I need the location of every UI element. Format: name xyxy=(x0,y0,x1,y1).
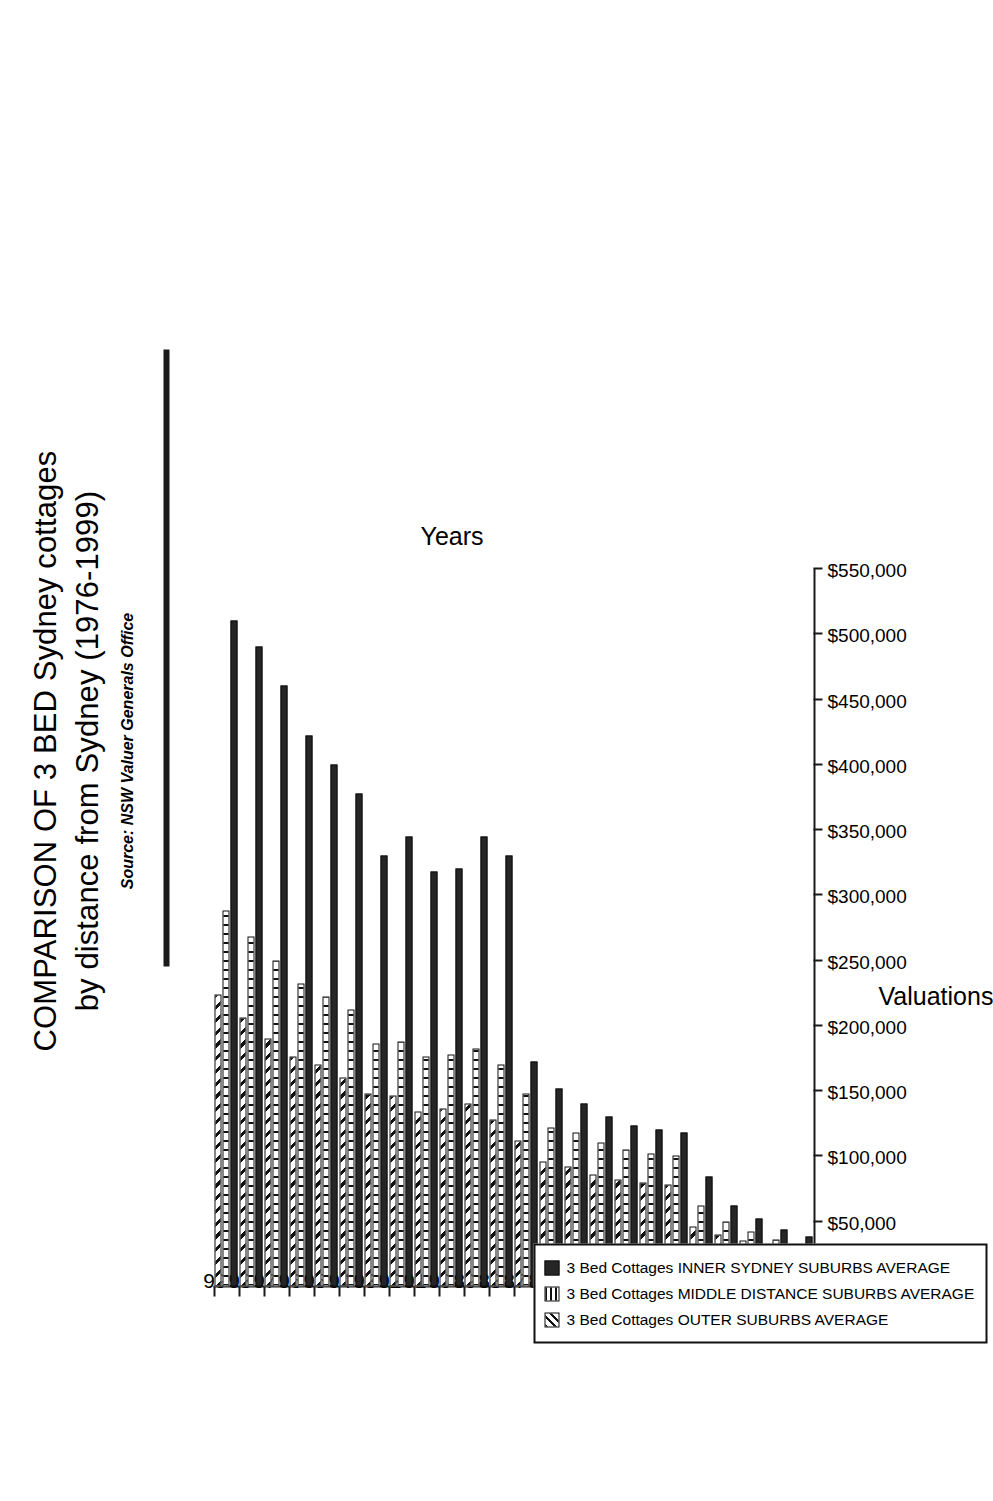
bar-group-82 xyxy=(638,568,663,1286)
bar-88-series-0 xyxy=(505,855,512,1286)
value-axis-tick-label: $300,000 xyxy=(827,885,906,907)
bar-97-series-1 xyxy=(272,960,279,1286)
bar-92-series-0 xyxy=(405,836,412,1286)
bar-88-series-2 xyxy=(489,1119,496,1286)
bar-89-series-2 xyxy=(464,1103,471,1286)
bar-89-series-1 xyxy=(472,1048,479,1286)
bar-group-81 xyxy=(663,568,688,1286)
value-axis-tick xyxy=(813,893,822,895)
value-axis-tick-label: $550,000 xyxy=(827,559,906,581)
bar-89-series-0 xyxy=(480,836,487,1286)
bar-92-series-1 xyxy=(397,1041,404,1286)
bar-94-series-0 xyxy=(355,793,362,1286)
bar-99-series-0 xyxy=(230,620,237,1286)
bar-group-83 xyxy=(613,568,638,1286)
bar-group-96 xyxy=(288,568,313,1286)
bar-96-series-1 xyxy=(297,983,304,1286)
bar-95-series-1 xyxy=(322,996,329,1286)
legend-item[interactable]: 3 Bed Cottages MIDDLE DISTANCE SUBURBS A… xyxy=(544,1280,974,1306)
bar-90-series-1 xyxy=(447,1054,454,1286)
legend: 3 Bed Cottages INNER SYDNEY SUBURBS AVER… xyxy=(533,1243,987,1343)
value-axis-tick xyxy=(813,763,822,765)
bar-group-97 xyxy=(263,568,288,1286)
bar-group-91 xyxy=(413,568,438,1286)
bar-93-series-1 xyxy=(372,1043,379,1286)
value-axis-tick xyxy=(813,828,822,830)
bar-87-series-1 xyxy=(522,1093,529,1286)
value-axis-tick xyxy=(813,959,822,961)
bar-group-92 xyxy=(388,568,413,1286)
value-axis-tick-label: $350,000 xyxy=(827,820,906,842)
value-axis-tick-label: $250,000 xyxy=(827,951,906,973)
bar-99-series-2 xyxy=(214,994,221,1286)
chart-title: COMPARISON OF 3 BED Sydney cottages by d… xyxy=(24,0,108,1501)
bar-97-series-2 xyxy=(264,1038,271,1286)
chart-subtitle-source: Source: NSW Valuer Generals Office xyxy=(118,0,136,1501)
bar-group-88 xyxy=(488,568,513,1286)
bar-group-90 xyxy=(438,568,463,1286)
bar-98-series-1 xyxy=(247,936,254,1286)
bar-98-series-0 xyxy=(255,646,262,1286)
legend-item[interactable]: 3 Bed Cottages INNER SYDNEY SUBURBS AVER… xyxy=(544,1254,974,1280)
legend-label-inner: 3 Bed Cottages INNER SYDNEY SUBURBS AVER… xyxy=(566,1258,950,1276)
bar-group-80 xyxy=(688,568,713,1286)
chart-title-line-2: by distance from Sydney (1976-1999) xyxy=(66,0,108,1501)
value-axis-tick xyxy=(813,1089,822,1091)
bar-group-77 xyxy=(763,568,788,1286)
bar-98-series-2 xyxy=(239,1017,246,1286)
bar-group-86 xyxy=(538,568,563,1286)
bar-group-89 xyxy=(463,568,488,1286)
legend-swatch-outer-icon xyxy=(544,1312,559,1327)
bar-group-85 xyxy=(563,568,588,1286)
legend-item[interactable]: 3 Bed Cottages OUTER SUBURBS AVERAGE xyxy=(544,1306,974,1332)
value-axis-tick xyxy=(813,1024,822,1026)
legend-swatch-middle-icon xyxy=(544,1286,559,1301)
legend-swatch-inner-icon xyxy=(544,1260,559,1275)
bar-99-series-1 xyxy=(222,910,229,1286)
bar-87-series-2 xyxy=(514,1140,521,1286)
value-axis-tick-label: $200,000 xyxy=(827,1016,906,1038)
legend-label-middle: 3 Bed Cottages MIDDLE DISTANCE SUBURBS A… xyxy=(566,1284,974,1302)
category-axis-title: Years xyxy=(420,521,483,550)
bar-group-95 xyxy=(313,568,338,1286)
bar-91-series-2 xyxy=(414,1111,421,1286)
bar-group-78 xyxy=(738,568,763,1286)
bar-group-99 xyxy=(213,568,238,1286)
value-axis-tick-label: $500,000 xyxy=(827,624,906,646)
bar-group-84 xyxy=(588,568,613,1286)
bar-91-series-0 xyxy=(430,871,437,1286)
bar-90-series-2 xyxy=(439,1108,446,1286)
bar-94-series-2 xyxy=(339,1077,346,1286)
value-axis-tick-label: $50,000 xyxy=(827,1212,896,1234)
value-axis-tick-label: $150,000 xyxy=(827,1081,906,1103)
bar-group-87 xyxy=(513,568,538,1286)
bar-97-series-0 xyxy=(280,686,287,1287)
value-axis-tick-label: $100,000 xyxy=(827,1146,906,1168)
value-axis-tick-label: $450,000 xyxy=(827,690,906,712)
bar-group-76 xyxy=(788,568,813,1286)
bar-93-series-2 xyxy=(364,1093,371,1286)
bar-95-series-2 xyxy=(314,1064,321,1286)
bar-group-98 xyxy=(238,568,263,1286)
bar-90-series-0 xyxy=(455,868,462,1286)
value-axis-tick xyxy=(813,632,822,634)
bar-group-93 xyxy=(363,568,388,1286)
bar-96-series-0 xyxy=(305,735,312,1286)
bar-95-series-0 xyxy=(330,764,337,1286)
value-axis-tick-label: $400,000 xyxy=(827,755,906,777)
plot-area: $0$50,000$100,000$150,000$200,000$250,00… xyxy=(213,568,813,1286)
value-axis-title: Valuations xyxy=(878,981,993,1010)
bar-88-series-1 xyxy=(497,1064,504,1286)
bar-92-series-2 xyxy=(389,1095,396,1286)
title-underline-rule xyxy=(163,349,169,966)
value-axis-tick xyxy=(813,1220,822,1222)
bar-group-79 xyxy=(713,568,738,1286)
bar-group-94 xyxy=(338,568,363,1286)
bar-93-series-0 xyxy=(380,855,387,1286)
chart-title-line-1: COMPARISON OF 3 BED Sydney cottages xyxy=(24,0,66,1501)
bar-91-series-1 xyxy=(422,1056,429,1286)
bar-96-series-2 xyxy=(289,1056,296,1286)
